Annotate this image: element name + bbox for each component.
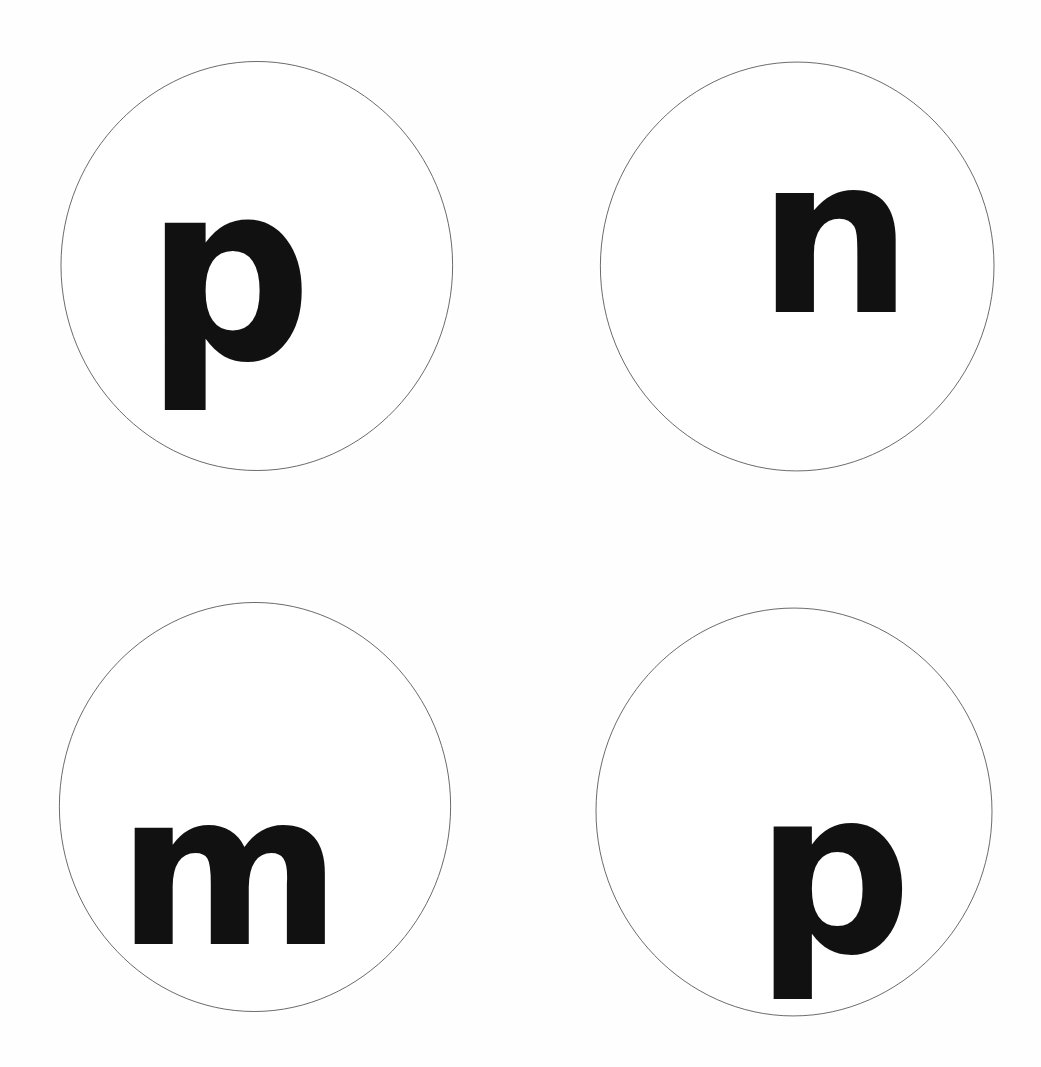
circle-letter-text: n bbox=[757, 128, 912, 346]
letter-circle-bottom-left[interactable]: m bbox=[57, 600, 453, 1014]
circle-letter: p bbox=[594, 606, 994, 1018]
letter-circle-top-right[interactable]: n bbox=[598, 60, 996, 473]
circle-letter: p bbox=[59, 59, 455, 473]
circle-letter-text: p bbox=[756, 758, 913, 986]
letter-circle-bottom-right[interactable]: p bbox=[594, 606, 994, 1018]
letter-circle-top-left[interactable]: p bbox=[59, 59, 455, 473]
circle-letter-text: p bbox=[146, 148, 313, 396]
circle-letter: n bbox=[598, 60, 996, 473]
worksheet-page: p n m p bbox=[0, 0, 1041, 1067]
circle-letter: m bbox=[57, 600, 453, 1014]
circle-letter-text: m bbox=[116, 765, 341, 977]
